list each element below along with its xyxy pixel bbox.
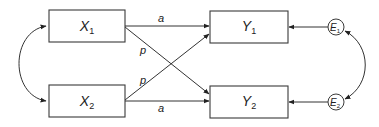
covariance-x1-x2-arrow xyxy=(19,26,46,101)
covariance-e1-e2-arrow xyxy=(345,31,365,99)
node-y1: Y1 xyxy=(210,11,288,43)
node-x1: X1 xyxy=(49,10,125,42)
label-x1-y1: a xyxy=(158,12,164,24)
node-y1-sub: 1 xyxy=(251,26,256,36)
node-x2-var: X xyxy=(79,93,90,109)
node-e1: E1 xyxy=(328,19,344,35)
path-x1-y2-arrow xyxy=(125,27,209,94)
path-x2-y1-arrow xyxy=(125,34,209,100)
node-x1-sub: 1 xyxy=(89,26,94,36)
node-y2-sub: 2 xyxy=(251,101,256,111)
node-x1-var: X xyxy=(79,18,90,34)
path-diagram: a p p a X1 X2 Y1 Y2 E1 E2 xyxy=(0,0,379,127)
label-x2-y2: a xyxy=(158,102,164,114)
label-x2-y1: p xyxy=(139,74,146,86)
node-y2: Y2 xyxy=(210,86,288,118)
node-x2: X2 xyxy=(49,85,125,117)
node-e2: E2 xyxy=(328,94,344,110)
label-x1-y2: p xyxy=(139,44,146,56)
node-x2-sub: 2 xyxy=(89,101,94,111)
